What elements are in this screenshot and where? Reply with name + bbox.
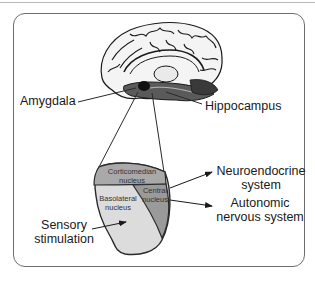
zoom-line-right	[152, 93, 164, 172]
label-neuroendocrine-system: Neuroendocrine system	[215, 164, 307, 192]
arrow-to-neuroendocrine	[170, 172, 212, 188]
label-hippocampus: Hippocampus	[205, 99, 281, 113]
zoom-line-left	[99, 92, 138, 167]
label-central-nucleus: Central nucleus	[138, 187, 172, 204]
arrow-to-autonomic	[170, 200, 212, 206]
label-sensory-stimulation: Sensory stimulation	[32, 218, 96, 246]
label-basolateral-nucleus: Basolateral nucleus	[96, 195, 140, 212]
label-amygdala: Amygdala	[20, 94, 76, 108]
label-autonomic-nervous-system: Autonomic nervous system	[212, 196, 308, 224]
label-corticomedian-nucleus: Corticomedian nucleus	[100, 168, 164, 185]
brain-illustration	[101, 23, 222, 101]
